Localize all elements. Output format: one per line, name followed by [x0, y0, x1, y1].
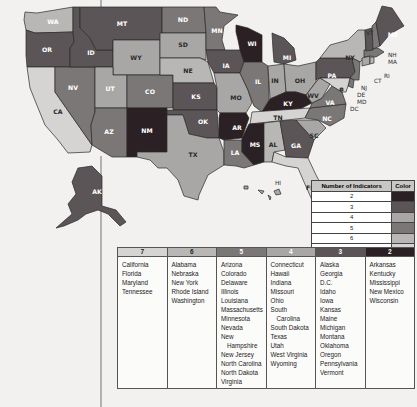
list-item: Colorado — [221, 269, 266, 278]
svg-text:CT: CT — [374, 78, 382, 84]
list-item: Arizona — [221, 260, 266, 269]
list-item: Iowa — [320, 296, 365, 305]
legend-header-number: Number of Indicators — [312, 181, 392, 192]
list-item: Louisiana — [221, 296, 266, 305]
table-column: 4ConnecticutHawaiiIndianaMissouriOhioSou… — [267, 248, 317, 388]
list-item: Wisconsin — [370, 296, 415, 305]
svg-text:MT: MT — [117, 20, 128, 27]
list-item: Nebraska — [172, 269, 217, 278]
svg-text:GA: GA — [291, 142, 301, 149]
svg-text:RI: RI — [384, 73, 390, 79]
svg-text:TN: TN — [273, 114, 282, 121]
state-ri[interactable] — [370, 57, 374, 64]
legend-swatch — [392, 202, 415, 213]
svg-text:NY: NY — [345, 54, 355, 61]
list-item: Oklahoma — [320, 341, 365, 350]
svg-text:WY: WY — [130, 54, 142, 61]
list-item: Idaho — [320, 287, 365, 296]
svg-text:VT: VT — [366, 30, 374, 36]
list-item: North Carolina — [221, 359, 266, 368]
column-header: 5 — [217, 248, 266, 257]
svg-text:NC: NC — [322, 115, 332, 122]
legend-row: 4 — [312, 212, 415, 223]
svg-text:AK: AK — [92, 188, 102, 195]
list-item: New Jersey — [221, 350, 266, 359]
svg-text:DC: DC — [350, 106, 359, 112]
svg-text:ME: ME — [388, 31, 398, 38]
list-item: Maine — [320, 314, 365, 323]
svg-text:WI: WI — [247, 40, 256, 47]
list-item: Vermont — [320, 368, 365, 377]
list-item: Missouri — [271, 287, 316, 296]
list-item: Massachusetts — [221, 305, 266, 314]
list-item: Alaska — [320, 260, 365, 269]
list-item: Ohio — [271, 296, 316, 305]
legend-header-color: Color — [392, 181, 415, 192]
list-item: Florida — [122, 269, 167, 278]
list-item: Washington — [172, 296, 217, 305]
svg-text:NE: NE — [183, 67, 192, 74]
svg-text:WV: WV — [307, 92, 319, 99]
legend-swatch — [392, 191, 415, 202]
svg-text:IN: IN — [271, 77, 278, 84]
states-by-indicator-table: 7CaliforniaFloridaMarylandTennessee6Alab… — [117, 247, 415, 389]
list-item: Virginia — [221, 377, 266, 386]
legend-table: Number of Indicators Color 2 3 4 5 6 7 — [311, 180, 415, 255]
svg-text:HI: HI — [275, 180, 281, 186]
state-ak[interactable] — [56, 166, 126, 228]
list-item: Tennessee — [122, 287, 167, 296]
legend-row: 5 — [312, 223, 415, 234]
svg-text:IL: IL — [255, 78, 261, 85]
list-item: Minnesota — [221, 314, 266, 323]
svg-text:VA: VA — [325, 99, 334, 106]
list-item: Connecticut — [271, 260, 316, 269]
svg-text:KS: KS — [191, 93, 200, 100]
list-item: Georgia — [320, 269, 365, 278]
table-column: 7CaliforniaFloridaMarylandTennessee — [118, 248, 168, 388]
state-hi[interactable] — [244, 186, 281, 200]
legend-row: 6 — [312, 233, 415, 244]
list-item: Indiana — [271, 278, 316, 287]
state-me[interactable] — [376, 6, 404, 46]
svg-text:AR: AR — [232, 124, 242, 131]
list-item: Pennsylvania — [320, 359, 365, 368]
svg-text:OR: OR — [42, 46, 52, 53]
list-item: Kansas — [320, 305, 365, 314]
table-column: 2ArkansasKentuckyMississippiNew MexicoWi… — [366, 248, 415, 388]
svg-text:ND: ND — [178, 16, 188, 23]
column-header: 3 — [316, 248, 365, 257]
svg-text:UT: UT — [105, 85, 115, 92]
legend-row: 2 — [312, 191, 415, 202]
column-header: 4 — [267, 248, 316, 257]
state-dc[interactable] — [340, 88, 343, 91]
column-header: 2 — [366, 248, 415, 257]
svg-text:MO: MO — [230, 94, 241, 101]
svg-text:PA: PA — [328, 72, 337, 79]
list-item: South Dakota — [271, 323, 316, 332]
list-item: California — [122, 260, 167, 269]
table-column: 6AlabamaNebraskaNew YorkRhode IslandWash… — [168, 248, 218, 388]
svg-text:OH: OH — [295, 77, 305, 84]
legend-swatch — [392, 223, 415, 234]
state-ny[interactable] — [320, 30, 366, 62]
svg-text:TX: TX — [189, 151, 198, 158]
table-column: 3AlaskaGeorgiaD.C.IdahoIowaKansasMaineMi… — [316, 248, 366, 388]
svg-text:SD: SD — [178, 41, 188, 48]
list-item: Montana — [320, 332, 365, 341]
svg-text:AZ: AZ — [104, 128, 114, 135]
svg-text:MA: MA — [388, 59, 397, 65]
svg-text:OK: OK — [198, 118, 208, 125]
legend-row: 3 — [312, 202, 415, 213]
list-item: Michigan — [320, 323, 365, 332]
legend-swatch — [392, 212, 415, 223]
state-ct[interactable] — [362, 56, 370, 66]
list-item: Delaware — [221, 278, 266, 287]
column-header: 6 — [168, 248, 217, 257]
list-item: D.C. — [320, 278, 365, 287]
svg-text:IA: IA — [222, 62, 229, 69]
svg-text:NV: NV — [68, 84, 78, 91]
svg-text:NH: NH — [388, 52, 397, 58]
svg-text:CA: CA — [53, 108, 63, 115]
list-item: New Mexico — [370, 287, 415, 296]
svg-text:CO: CO — [145, 88, 155, 95]
